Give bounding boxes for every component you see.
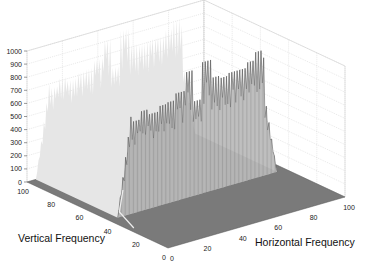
z-tick-label: 600 xyxy=(10,100,22,107)
x-axis-label: Horizontal Frequency xyxy=(255,236,356,248)
y-tick-label: 0 xyxy=(162,254,166,261)
x-tick-label: 40 xyxy=(239,235,247,242)
y-tick-label: 80 xyxy=(47,201,55,208)
z-axis-ticks: 01002003004005006007008009001000 xyxy=(6,48,27,186)
z-tick-label: 900 xyxy=(10,61,22,68)
y-tick-label: 100 xyxy=(17,188,29,195)
z-tick-label: 400 xyxy=(10,126,22,133)
z-tick-label: 800 xyxy=(10,74,22,81)
x-tick-label: 20 xyxy=(204,245,212,252)
x-tick-label: 60 xyxy=(274,224,282,231)
z-tick-label: 500 xyxy=(10,113,22,120)
z-tick-label: 1000 xyxy=(6,48,22,55)
x-tick-label: 100 xyxy=(343,204,355,211)
y-tick-label: 60 xyxy=(76,214,84,221)
z-tick-label: 100 xyxy=(10,165,22,172)
z-tick-label: 700 xyxy=(10,87,22,94)
surface-plot: 01002003004005006007008009001000 0204060… xyxy=(0,0,372,261)
z-tick-label: 0 xyxy=(18,179,22,186)
z-tick-label: 200 xyxy=(10,152,22,159)
x-tick-label: 0 xyxy=(170,255,174,261)
y-axis-label: Vertical Frequency xyxy=(18,232,106,244)
z-tick-label: 300 xyxy=(10,139,22,146)
y-tick-label: 20 xyxy=(132,241,140,248)
x-tick-label: 80 xyxy=(310,214,318,221)
